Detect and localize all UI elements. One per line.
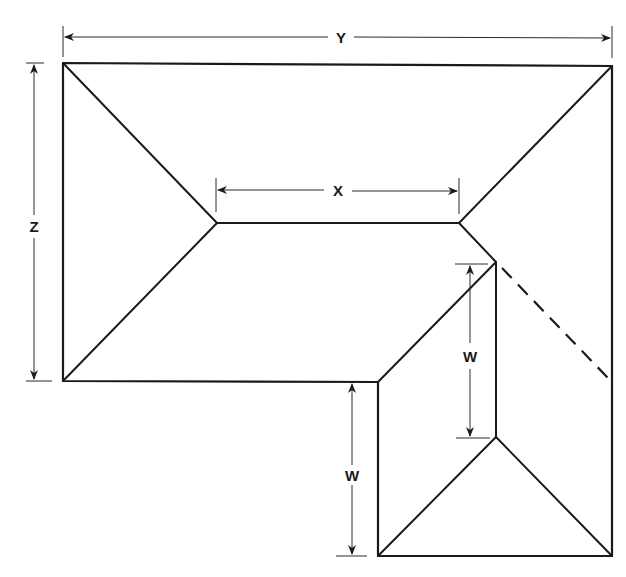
dimension-z-label: Z: [29, 218, 38, 235]
roof-plan-diagram: Y Z X W W: [0, 0, 626, 577]
dimension-w-upper: W: [455, 264, 490, 438]
dimension-x: X: [216, 178, 459, 214]
roof-outline: [63, 63, 612, 556]
dimension-y-label: Y: [336, 29, 346, 46]
dimension-w-upper-label: W: [463, 348, 478, 365]
hip-lines: [63, 63, 612, 556]
dimension-w-lower: W: [336, 384, 367, 556]
ridge-lines: [217, 223, 496, 437]
dimension-z: Z: [26, 63, 52, 381]
dimension-y: Y: [63, 26, 612, 58]
dimension-x-label: X: [333, 182, 343, 199]
dimension-w-lower-label: W: [345, 467, 360, 484]
dashed-hip-line: [502, 268, 608, 378]
valley-lines: [378, 223, 496, 382]
